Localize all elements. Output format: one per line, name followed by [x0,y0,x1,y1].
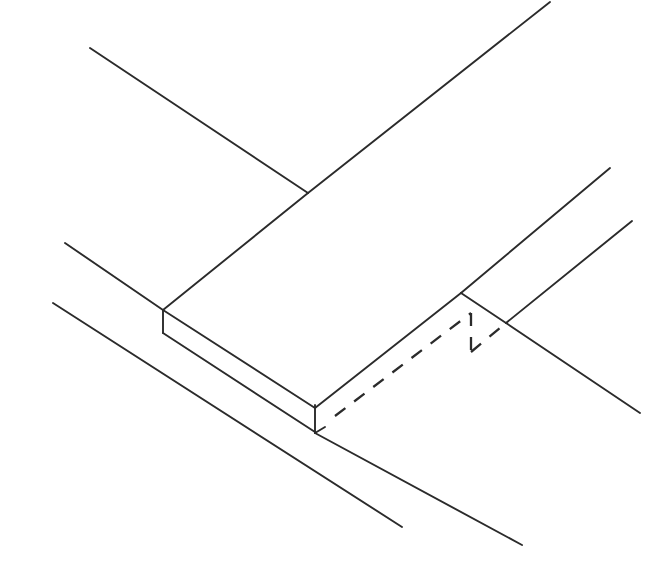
slab-bottom-hook-tick [315,427,325,433]
solid-body-faces [163,193,461,432]
upper-right-ledge-edge [461,168,610,293]
isometric-drawing-svg [0,0,670,572]
ledge-step-edge [461,293,506,323]
upper-right-extension-line [308,2,550,193]
right-extension-lower [506,323,640,413]
technical-drawing-canvas [0,0,670,572]
right-extension-upper [506,221,632,323]
bottom-ground-line [315,433,522,545]
left-extension-mid [65,243,163,310]
top-face-fill [163,193,461,408]
hidden-step-edge [471,323,506,352]
upper-left-extension-line [90,48,308,193]
